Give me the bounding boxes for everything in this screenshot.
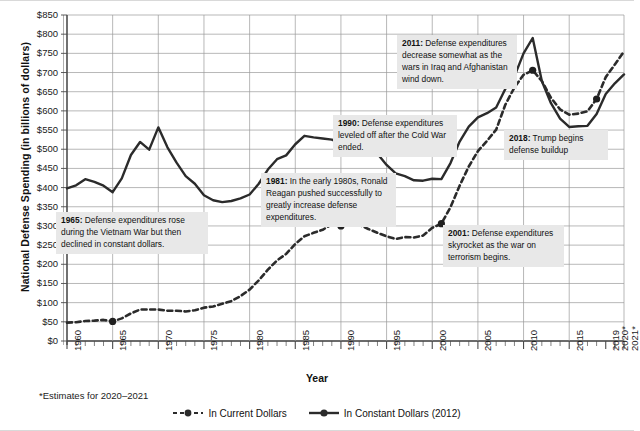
y-tick-label: $600 [18,106,58,115]
y-tick-label: $500 [18,144,58,153]
x-tick-label: 1980 [254,330,265,351]
annotation-year: 2001: [448,228,469,238]
legend-swatch-dashed-icon [173,407,203,419]
y-tick-label: $100 [18,298,58,307]
x-tick-label: 1995 [391,330,402,351]
x-tick-label: 2015 [574,330,585,351]
annotation-2011: 2011: Defense expenditures decrease some… [397,35,517,89]
x-tick-label: 2000 [437,330,448,351]
y-tick-label: $50 [18,317,58,326]
annotation-year: 1981: [266,176,287,186]
y-tick-label: $750 [18,48,58,57]
annotation-1990: 1990: Defense expenditures leveled off a… [333,115,457,157]
y-tick-label: $700 [18,68,58,77]
x-tick-label: 2021* [629,326,640,351]
annotation-1981: 1981: In the early 1980s, Ronald Reagan … [261,173,396,227]
legend-item-constant-dollars: In Constant Dollars (2012) [309,407,461,419]
legend-label-constant-dollars: In Constant Dollars (2012) [344,408,461,419]
x-tick-label: 1965 [117,330,128,351]
y-tick-label: $0 [18,336,58,345]
y-tick-label: $650 [18,87,58,96]
x-tick-label: 2005 [482,330,493,351]
y-tick-label: $800 [18,29,58,38]
annotation-year: 1965: [61,215,82,225]
y-tick-label: $850 [18,10,58,19]
annotation-year: 2011: [402,38,423,48]
x-tick-label: 1975 [208,330,219,351]
x-tick-label: 1990 [345,330,356,351]
y-tick-label: $150 [18,278,58,287]
x-tick-label: 1960 [72,330,83,351]
x-tick-label: 1970 [163,330,174,351]
legend-item-current-dollars: In Current Dollars [173,407,286,419]
chart-legend: In Current Dollars In Constant Dollars (… [0,407,634,419]
x-tick-label: 2010 [528,330,539,351]
annotation-1965: 1965: Defense expenditures rose during t… [56,212,208,254]
y-tick-label: $250 [18,240,58,249]
y-tick-label: $400 [18,183,58,192]
annotation-year: 1990: [338,118,359,128]
y-tick-label: $450 [18,163,58,172]
x-axis-title: Year [0,372,634,384]
annotation-2001: 2001: Defense expenditures skyrocket as … [443,225,564,267]
legend-swatch-solid-icon [309,407,339,419]
annotation-year: 2018: [509,133,530,143]
y-tick-label: $350 [18,202,58,211]
x-tick-label: 1985 [300,330,311,351]
annotation-2018: 2018: Trump begins defense buildup [504,130,608,160]
y-tick-label: $200 [18,259,58,268]
legend-label-current-dollars: In Current Dollars [208,408,286,419]
y-tick-label: $300 [18,221,58,230]
chart-footnote: *Estimates for 2020–2021 [39,390,148,401]
y-tick-label: $550 [18,125,58,134]
